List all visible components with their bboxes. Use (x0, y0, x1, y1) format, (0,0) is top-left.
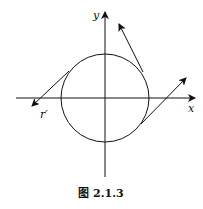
vector-upper-right (119, 24, 143, 72)
figure-caption: 图 2.1.3 (78, 187, 123, 200)
y-axis-label: y (92, 9, 100, 22)
vector-label-r-prime: r′ (40, 108, 48, 121)
vector-r-prime (32, 71, 69, 106)
figure-canvas: y x r′ 图 2.1.3 (0, 0, 203, 209)
x-axis-label: x (188, 102, 195, 115)
vector-lower-right (141, 78, 186, 124)
